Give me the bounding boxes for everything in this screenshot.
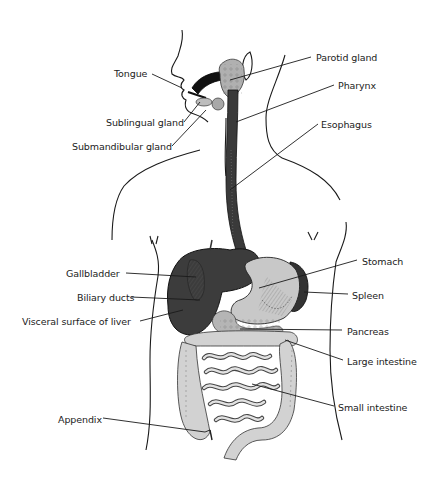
- digestive-system-diagram: Tongue Sublingual gland Submandibular gl…: [0, 0, 433, 481]
- label-small-intestine: Small intestine: [338, 402, 407, 413]
- label-pharynx: Pharynx: [338, 80, 376, 91]
- label-tongue: Tongue: [114, 68, 147, 79]
- large-intestine: [178, 331, 298, 460]
- label-parotid-gland: Parotid gland: [316, 52, 377, 63]
- label-gallbladder: Gallbladder: [66, 268, 120, 279]
- esophagus-tube: [226, 90, 246, 250]
- label-sublingual-gland: Sublingual gland: [106, 117, 184, 128]
- label-appendix: Appendix: [58, 414, 102, 425]
- label-submandibular-gland: Submandibular gland: [72, 141, 172, 152]
- label-biliary-ducts: Biliary ducts: [77, 292, 134, 303]
- label-stomach: Stomach: [362, 256, 403, 267]
- label-visceral-surface-of-liver: Visceral surface of liver: [22, 316, 131, 327]
- label-esophagus: Esophagus: [321, 119, 372, 130]
- label-pancreas: Pancreas: [347, 326, 389, 337]
- label-large-intestine: Large intestine: [347, 356, 417, 367]
- label-spleen: Spleen: [352, 290, 384, 301]
